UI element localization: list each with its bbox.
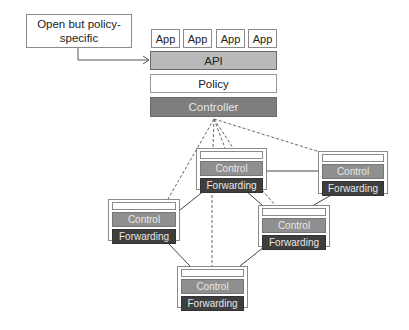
switch-header (200, 151, 263, 159)
switch-right: Control Forwarding (318, 151, 388, 194)
forwarding-plane: Forwarding (181, 296, 244, 311)
switch-header (262, 208, 326, 216)
switch-mid-right: Control Forwarding (258, 205, 330, 247)
annotation-arrow (78, 47, 148, 60)
app-box-2: App (183, 29, 212, 48)
switch-bottom: Control Forwarding (177, 266, 248, 308)
switch-header (322, 154, 384, 162)
control-plane: Control (262, 218, 326, 233)
api-layer: API (150, 51, 277, 70)
switch-header (112, 202, 176, 210)
control-plane: Control (112, 212, 176, 227)
annotation-text: Open but policy-specific (37, 17, 121, 45)
annotation-box: Open but policy-specific (26, 14, 132, 48)
forwarding-plane: Forwarding (112, 229, 176, 244)
app-box-3: App (216, 29, 245, 48)
app-box-1: App (151, 29, 180, 48)
forwarding-plane: Forwarding (322, 181, 384, 196)
control-plane: Control (181, 279, 244, 294)
controller-layer: Controller (150, 97, 277, 117)
switch-left: Control Forwarding (108, 199, 180, 241)
switch-top-center: Control Forwarding (196, 148, 267, 190)
policy-layer: Policy (150, 74, 277, 93)
forwarding-plane: Forwarding (262, 235, 326, 250)
switch-header (181, 269, 244, 277)
app-box-4: App (248, 29, 277, 48)
forwarding-plane: Forwarding (200, 178, 263, 193)
control-plane: Control (200, 161, 263, 176)
control-plane: Control (322, 164, 384, 179)
